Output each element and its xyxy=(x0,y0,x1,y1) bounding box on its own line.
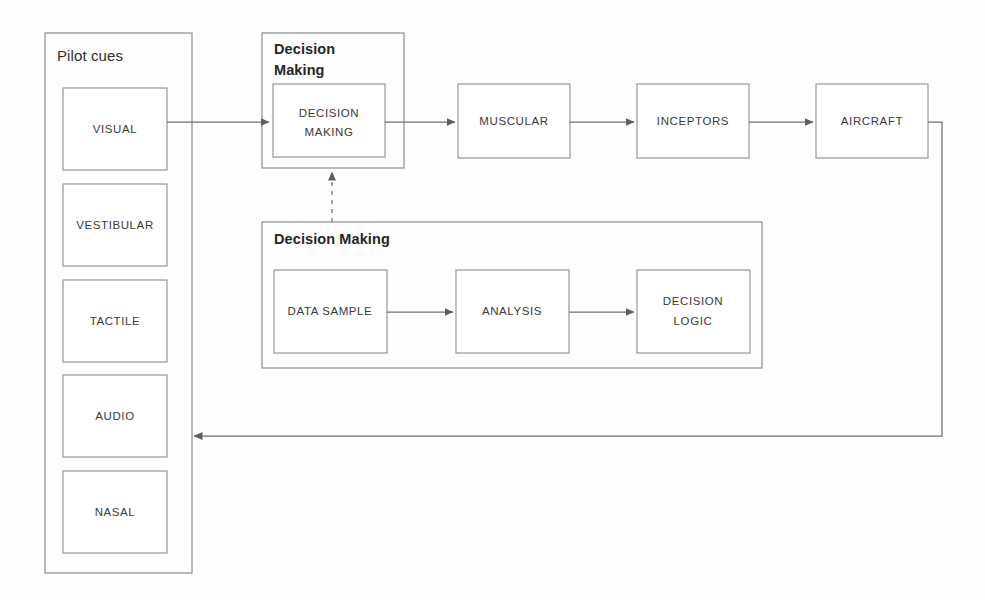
pilot-cue-tactile-label: TACTILE xyxy=(90,315,141,327)
pilot-cue-tactile[interactable]: TACTILE xyxy=(63,280,167,362)
pilot-cue-nasal[interactable]: NASAL xyxy=(63,471,167,553)
decision-making-top-label-line2: Making xyxy=(274,62,325,78)
decision-making-top-label-line1: Decision xyxy=(274,41,335,57)
process-box-muscular[interactable]: MUSCULAR xyxy=(458,84,570,158)
pilot-cue-visual[interactable]: VISUAL xyxy=(63,88,167,170)
process-box-inceptors[interactable]: INCEPTORS xyxy=(637,84,749,158)
decision-making-inner-box[interactable]: DECISION MAKING xyxy=(273,84,385,157)
detail-box-decision-logic-rect[interactable] xyxy=(637,270,750,353)
pilot-cues-label: Pilot cues xyxy=(57,47,123,64)
decision-making-top-group: Decision Making DECISION MAKING xyxy=(262,33,404,168)
pilot-cue-visual-label: VISUAL xyxy=(93,123,138,135)
decision-making-inner-label-line2: MAKING xyxy=(305,126,354,138)
flow-diagram-canvas: Pilot cues VISUAL VESTIBULAR TACTILE AUD… xyxy=(0,0,985,600)
decision-making-bottom-group: Decision Making DATA SAMPLE ANALYSIS DEC… xyxy=(262,222,762,368)
process-box-muscular-label: MUSCULAR xyxy=(479,115,548,127)
pilot-cue-nasal-label: NASAL xyxy=(95,506,136,518)
detail-box-decision-logic-label-line2: LOGIC xyxy=(674,315,713,327)
decision-making-inner-label-line1: DECISION xyxy=(299,107,359,119)
pilot-cue-vestibular-label: VESTIBULAR xyxy=(76,219,154,231)
process-box-inceptors-label: INCEPTORS xyxy=(657,115,729,127)
detail-box-decision-logic[interactable]: DECISION LOGIC xyxy=(637,270,750,353)
decision-making-inner-rect[interactable] xyxy=(273,84,385,157)
detail-box-analysis-label: ANALYSIS xyxy=(482,305,542,317)
decision-making-bottom-label: Decision Making xyxy=(274,231,390,247)
pilot-cue-audio-label: AUDIO xyxy=(95,410,134,422)
process-box-aircraft-label: AIRCRAFT xyxy=(841,115,903,127)
detail-box-decision-logic-label-line1: DECISION xyxy=(663,295,723,307)
detail-box-data-sample[interactable]: DATA SAMPLE xyxy=(274,270,387,353)
detail-box-data-sample-label: DATA SAMPLE xyxy=(288,305,373,317)
pilot-cue-audio[interactable]: AUDIO xyxy=(63,375,167,457)
detail-box-analysis[interactable]: ANALYSIS xyxy=(456,270,569,353)
flow-diagram-svg: Pilot cues VISUAL VESTIBULAR TACTILE AUD… xyxy=(0,0,985,600)
pilot-cues-group: Pilot cues VISUAL VESTIBULAR TACTILE AUD… xyxy=(45,33,192,573)
pilot-cue-vestibular[interactable]: VESTIBULAR xyxy=(63,184,167,266)
process-box-aircraft[interactable]: AIRCRAFT xyxy=(816,84,928,158)
